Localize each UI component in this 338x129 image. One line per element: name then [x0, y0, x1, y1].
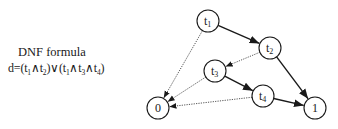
node-t1: t1: [197, 10, 219, 32]
edge-t2-to-t3: [226, 52, 260, 66]
node-t2: t2: [259, 37, 281, 59]
node-t3: t3: [204, 60, 226, 82]
node-t4: t4: [252, 85, 274, 107]
edge-t1-to-0: [164, 31, 203, 98]
node-1: 1: [304, 97, 326, 119]
edge-t1-to-t2: [218, 25, 259, 43]
node-label: 1: [312, 101, 318, 115]
edge-t4-to-1: [274, 98, 304, 105]
edge-t4-to-0: [169, 97, 252, 106]
bdd-diagram: t1t2t3t401: [0, 0, 338, 129]
edges: [164, 25, 308, 106]
node-0: 0: [147, 97, 169, 119]
nodes: t1t2t3t401: [147, 10, 326, 119]
edge-t2-to-1: [277, 57, 309, 99]
node-label: 0: [155, 101, 161, 115]
edge-t3-to-t4: [225, 76, 253, 91]
